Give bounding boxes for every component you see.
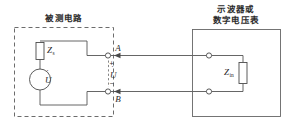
instrument-title-line-1: 示波器或: [216, 4, 254, 14]
wire-instrument-bottom-to-zin: [212, 84, 243, 92]
input-impedance-symbol: [239, 63, 247, 84]
instrument-boundary: [193, 30, 281, 117]
instrument-title-line-2: 数字电压表: [213, 15, 260, 25]
source-impedance-symbol: [36, 43, 44, 60]
instrument-terminal-top: [206, 53, 211, 58]
input-impedance-label: Zin: [224, 67, 234, 78]
wire-source-bottom: [40, 90, 87, 105]
circuit-diagram-canvas: 被测电路 Zs U ˙ A B + U ˙ −: [0, 0, 288, 129]
terminal-b-node: [105, 89, 110, 94]
source-voltage-phasor-dot: ˙: [46, 68, 49, 78]
terminal-b-label: B: [115, 94, 121, 104]
source-impedance-label: Zs: [47, 45, 55, 56]
instrument-terminal-bottom: [206, 89, 211, 94]
terminal-a-node: [105, 53, 110, 58]
device-under-test-title: 被测电路: [45, 13, 82, 23]
circuit-diagram-figure: 被测电路 Zs U ˙ A B + U ˙ −: [0, 0, 288, 129]
measured-voltage-phasor-dot: ˙: [111, 64, 114, 74]
current-arrow-top-icon: [114, 53, 121, 58]
voltage-minus-sign: −: [109, 80, 113, 87]
wire-instrument-top-to-zin: [212, 56, 243, 63]
terminal-a-label: A: [114, 43, 121, 53]
